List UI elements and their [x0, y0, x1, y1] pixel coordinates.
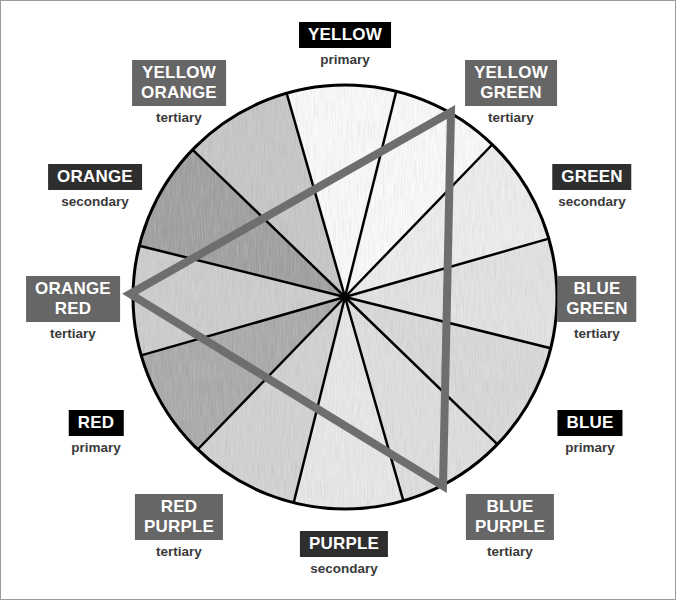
color-type: tertiary [26, 326, 120, 341]
color-name-box: GREEN [552, 164, 631, 190]
label-yellow: YELLOW primary [299, 22, 391, 67]
label-orange-red: ORANGE RED tertiary [26, 276, 120, 341]
label-orange: ORANGE secondary [48, 164, 142, 209]
label-red: RED primary [69, 410, 124, 455]
label-yellow-green: YELLOW GREEN tertiary [465, 60, 557, 125]
color-name-box: YELLOW GREEN [465, 60, 557, 106]
label-purple: PURPLE secondary [300, 531, 388, 576]
color-type: tertiary [132, 110, 226, 125]
color-name-box: BLUE PURPLE [466, 494, 554, 540]
label-blue: BLUE primary [557, 410, 622, 455]
label-blue-purple: BLUE PURPLE tertiary [466, 494, 554, 559]
label-red-purple: RED PURPLE tertiary [135, 494, 223, 559]
color-type: primary [69, 440, 124, 455]
color-type: secondary [300, 561, 388, 576]
color-type: tertiary [466, 544, 554, 559]
color-type: tertiary [557, 326, 636, 341]
label-yellow-orange: YELLOW ORANGE tertiary [132, 60, 226, 125]
label-blue-green: BLUE GREEN tertiary [557, 276, 636, 341]
color-type: secondary [552, 194, 631, 209]
color-name-box: BLUE GREEN [557, 276, 636, 322]
color-type: primary [557, 440, 622, 455]
color-name-box: RED [69, 410, 124, 436]
color-type: tertiary [465, 110, 557, 125]
color-name-box: YELLOW [299, 22, 391, 48]
color-type: secondary [48, 194, 142, 209]
color-name-box: BLUE [557, 410, 622, 436]
color-name-box: RED PURPLE [135, 494, 223, 540]
color-name-box: PURPLE [300, 531, 388, 557]
color-type: primary [299, 52, 391, 67]
label-green: GREEN secondary [552, 164, 631, 209]
color-name-box: ORANGE [48, 164, 142, 190]
color-name-box: ORANGE RED [26, 276, 120, 322]
color-name-box: YELLOW ORANGE [132, 60, 226, 106]
color-type: tertiary [135, 544, 223, 559]
